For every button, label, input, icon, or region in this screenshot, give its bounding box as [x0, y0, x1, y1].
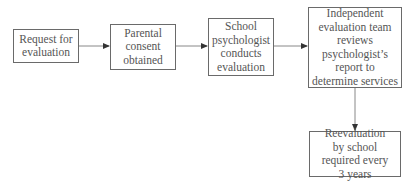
node-label: Request for evaluation — [16, 33, 76, 60]
node-parental-consent: Parental consent obtained — [110, 24, 176, 70]
node-request-for-evaluation: Request for evaluation — [13, 29, 79, 63]
node-school-psychologist: School psychologist conducts evaluation — [208, 18, 274, 76]
node-reevaluation: Reevaluation by school required every 3 … — [309, 131, 401, 177]
node-label: School psychologist conducts evaluation — [211, 20, 271, 74]
node-label: Reevaluation by school required every 3 … — [318, 127, 392, 181]
node-independent-evaluation-team: Independent evaluation team reviews psyc… — [308, 7, 402, 88]
node-label: Parental consent obtained — [113, 27, 173, 68]
node-label: Independent evaluation team reviews psyc… — [311, 7, 399, 88]
